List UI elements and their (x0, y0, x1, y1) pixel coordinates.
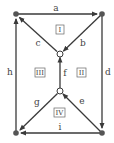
svg-text:I: I (59, 26, 62, 34)
edge-label-h: h (7, 67, 13, 77)
edge-label-d: d (105, 67, 111, 77)
node-bottom-left (13, 130, 19, 136)
node-top-left (13, 11, 19, 17)
node-bottom-right (99, 130, 105, 136)
region-label-I: I (56, 25, 64, 34)
svg-text:II: II (79, 69, 85, 77)
node-center-top (57, 51, 63, 57)
edge-label-g: g (34, 97, 40, 107)
edge-label-b: b (80, 38, 86, 48)
edge-label-f: f (63, 68, 67, 78)
edge-label-i: i (59, 122, 62, 132)
node-center-bottom (57, 88, 63, 94)
region-label-IV: IV (54, 108, 65, 117)
svg-text:IV: IV (56, 109, 65, 117)
region-label-III: III (35, 68, 45, 77)
region-label-II: II (77, 68, 86, 77)
edge-label-c: c (35, 38, 40, 48)
node-top-right (99, 11, 105, 17)
svg-text:III: III (36, 69, 45, 77)
graph-diagram: a b c d e f g h i I II III IV (0, 0, 114, 143)
edge-label-e: e (79, 96, 84, 106)
edge-label-a: a (53, 3, 59, 13)
